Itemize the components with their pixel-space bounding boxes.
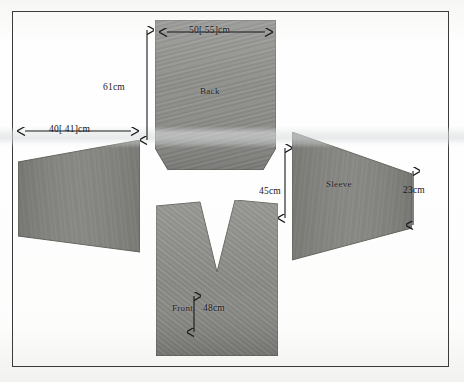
pattern-piece-back-label: Back bbox=[200, 86, 220, 96]
dimension-back-height-arrow bbox=[140, 22, 154, 148]
dimension-back-width-label: 50[ 55]cm bbox=[189, 25, 230, 35]
dimension-front-height-label: 45cm bbox=[259, 186, 281, 196]
dimension-back-height-label: 61cm bbox=[103, 82, 125, 92]
dimension-sleeve-left-length-label: 40[ 41]cm bbox=[49, 124, 90, 134]
pattern-piece-sleeve-right-label: Sleeve bbox=[326, 179, 352, 189]
dimension-front-height-arrow bbox=[278, 140, 292, 226]
pattern-piece-sleeve-left bbox=[18, 140, 140, 258]
pattern-piece-sleeve-right bbox=[292, 132, 412, 262]
dimension-front-width-arrow bbox=[187, 290, 201, 338]
pattern-diagram: Back Front bbox=[0, 0, 464, 382]
dimension-sleeve-cuff-label: 23cm bbox=[403, 185, 425, 195]
dimension-front-width-label: 48cm bbox=[203, 303, 225, 313]
pattern-piece-front bbox=[156, 200, 278, 356]
dimension-sleeve-cuff-arrow bbox=[406, 163, 420, 233]
